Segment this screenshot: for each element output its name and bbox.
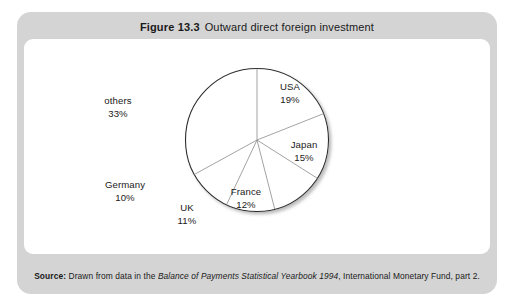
slice-label-usa-value: 19% (280, 94, 300, 107)
slice-label-france: France 12% (231, 186, 261, 211)
figure-frame: Figure 13.3 Outward direct foreign inves… (17, 12, 497, 294)
figure-title-band: Figure 13.3 Outward direct foreign inves… (17, 12, 497, 42)
slice-label-germany-value: 10% (105, 192, 145, 205)
slice-label-france-value: 12% (231, 199, 261, 212)
slice-label-uk-value: 11% (178, 215, 197, 228)
slice-label-uk-name: UK (178, 202, 197, 215)
slice-label-usa: USA 19% (280, 81, 300, 106)
slice-label-others-name: others (104, 95, 131, 108)
slice-label-japan-value: 15% (291, 152, 318, 165)
slice-label-germany: Germany 10% (105, 179, 145, 204)
slice-label-others-value: 33% (104, 108, 131, 121)
slice-label-uk: UK 11% (178, 202, 197, 227)
chart-panel: USA 19% Japan 15% France 12% UK 11% Germ… (24, 39, 490, 254)
pie-chart: USA 19% Japan 15% France 12% UK 11% Germ… (24, 39, 490, 254)
source-citation: Source: Drawn from data in the Balance o… (34, 271, 480, 281)
source-publication: Balance of Payments Statistical Yearbook… (158, 271, 338, 281)
figure-number: Figure 13.3 (140, 21, 200, 33)
pie-chart-svg (24, 39, 490, 254)
slice-label-germany-name: Germany (105, 179, 145, 192)
slice-label-usa-name: USA (280, 81, 300, 94)
page-title: Outward direct foreign investment (205, 21, 374, 33)
slice-label-others: others 33% (104, 95, 131, 120)
figure-source-band: Source: Drawn from data in the Balance o… (17, 257, 497, 294)
source-lead-text: Drawn from data in the (69, 271, 156, 281)
slice-label-japan: Japan 15% (291, 139, 318, 164)
source-label: Source: (34, 271, 66, 281)
slice-label-japan-name: Japan (291, 139, 318, 152)
source-tail: , International Monetary Fund, part 2. (338, 271, 480, 281)
slice-label-france-name: France (231, 186, 261, 199)
